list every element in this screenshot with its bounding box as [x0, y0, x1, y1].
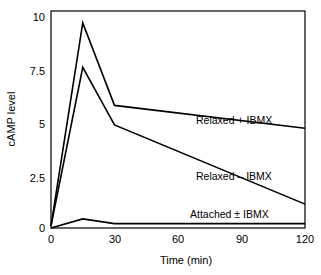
series-label-relaxed-plus-ibmx: Relaxed + IBMX	[196, 114, 272, 126]
y-axis-title: cAMP level	[5, 92, 17, 147]
y-tick-label-7-5: 7.5	[30, 65, 45, 77]
series-label-attached-ibmx: Attached ± IBMX	[190, 208, 269, 220]
y-tick-label-0: 0	[39, 222, 45, 234]
x-axis-title: Time (min)	[160, 254, 212, 266]
x-tick-label-30: 30	[109, 233, 121, 245]
x-tick-label-90: 90	[236, 233, 248, 245]
y-tick-label-5: 5	[39, 118, 45, 130]
y-tick-label-2-5: 2.5	[30, 172, 45, 184]
series-label-relaxed-minus-ibmx: Relaxed – IBMX	[196, 170, 272, 182]
x-tick-label-60: 60	[172, 233, 184, 245]
x-tick-label-0: 0	[48, 233, 54, 245]
y-tick-label-10: 10	[33, 11, 45, 23]
x-tick-label-120: 120	[296, 233, 314, 245]
camp-level-line-chart: 10 7.5 5 2.5 0 0 30 60 90 120 Time (min)…	[0, 0, 321, 275]
chart-container: 10 7.5 5 2.5 0 0 30 60 90 120 Time (min)…	[0, 0, 321, 275]
